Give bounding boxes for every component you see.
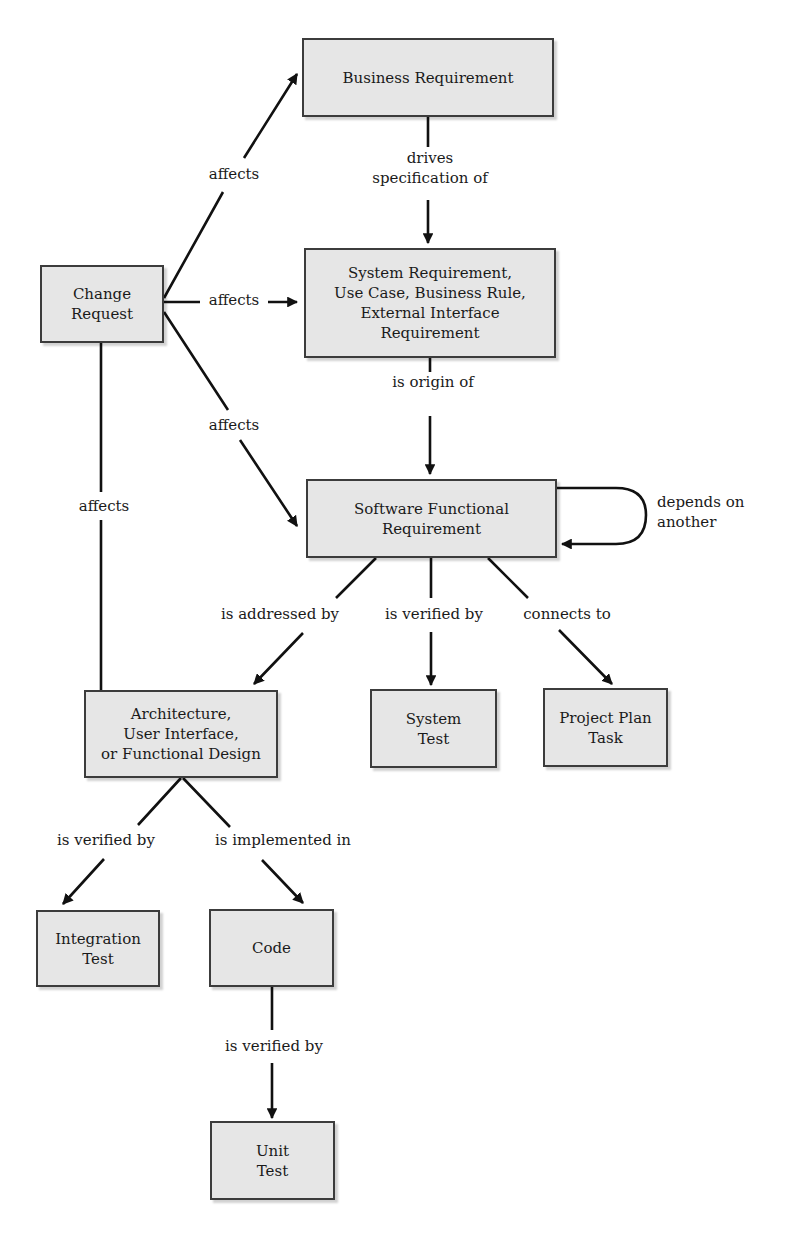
edge-label-sfr-project-plan: connects to (512, 604, 622, 624)
node-label: Business Requirement (343, 68, 514, 88)
node-label: Project Plan Task (559, 708, 652, 748)
node-label: Unit Test (256, 1141, 289, 1181)
edge-label-design-integration: is verified by (46, 830, 166, 850)
node-label: Architecture, User Interface, or Functio… (101, 704, 261, 764)
node-label: Code (252, 938, 291, 958)
node-business-requirement: Business Requirement (302, 38, 554, 117)
node-label: System Test (406, 709, 462, 749)
edge-label-br-sr: drives specification of (358, 148, 502, 188)
node-project-plan-task: Project Plan Task (543, 688, 668, 767)
node-software-functional-requirement: Software Functional Requirement (306, 479, 557, 558)
node-design: Architecture, User Interface, or Functio… (84, 690, 278, 778)
edge-label-sfr-design: is addressed by (208, 604, 352, 624)
diagram-canvas: Business Requirement Change Request Syst… (0, 0, 798, 1244)
node-system-requirement: System Requirement, Use Case, Business R… (304, 248, 556, 358)
edge-label-sr-sfr: is origin of (376, 372, 490, 392)
edge-sfr-self-loop (557, 488, 646, 544)
edge-label-sfr-system-test: is verified by (374, 604, 494, 624)
edge-label-code-unit-test: is verified by (214, 1036, 334, 1056)
node-code: Code (209, 909, 334, 987)
node-change-request: Change Request (40, 265, 164, 343)
edge-label-cr-sr: affects (200, 290, 268, 310)
edge-label-design-code: is implemented in (200, 830, 366, 850)
edge-cr-to-br (164, 74, 297, 298)
node-label: Software Functional Requirement (354, 499, 509, 539)
edge-label-cr-sfr: affects (200, 415, 268, 435)
node-integration-test: Integration Test (36, 910, 160, 987)
node-label: System Requirement, Use Case, Business R… (334, 263, 526, 343)
edge-label-sfr-self: depends on another (655, 492, 779, 532)
node-unit-test: Unit Test (210, 1121, 335, 1200)
node-label: Change Request (71, 284, 133, 324)
node-system-test: System Test (370, 689, 497, 768)
node-label: Integration Test (55, 929, 141, 969)
edge-label-cr-design: affects (70, 496, 138, 516)
edge-label-cr-br: affects (200, 164, 268, 184)
